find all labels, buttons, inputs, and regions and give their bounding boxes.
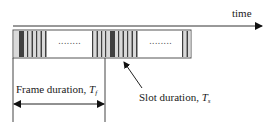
tdma-frame-diagram: time ........ [0,0,272,130]
time-label: time [232,7,252,19]
frame-duration-label: Frame duration, Tf [16,83,98,97]
slot-highlighted [110,31,115,57]
slot [129,31,132,57]
slot [103,31,106,57]
slot [98,31,101,57]
diagram-svg: time ........ [0,0,272,130]
ellipsis: ........ [149,36,172,46]
frame-strip: ........ [13,30,191,58]
slot-highlighted [19,31,24,57]
slot [188,31,191,57]
slot [14,31,19,57]
slot [38,31,41,57]
slot [133,31,136,57]
slot [124,31,127,57]
slot [33,31,36,57]
slot [24,31,27,57]
slot [184,31,187,57]
slot [115,31,118,57]
slot-pointer-arrow-icon [124,62,142,88]
slot [29,31,32,57]
slot [120,31,123,57]
slot [94,31,97,57]
ellipsis: ........ [58,36,81,46]
slot [42,31,45,57]
slot-duration-label: Slot duration, Ts [139,91,211,105]
slot [107,31,111,57]
